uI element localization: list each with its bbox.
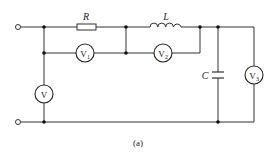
svg-text:3: 3 [256, 76, 259, 82]
resistor-label: R [82, 11, 89, 22]
junction-dot [216, 120, 220, 124]
svg-text:2: 2 [165, 54, 168, 60]
junction-dot [216, 25, 220, 29]
resistor [77, 24, 96, 30]
junction-dot [124, 51, 128, 55]
junction-dot [42, 120, 46, 124]
svg-text:1: 1 [87, 54, 90, 60]
terminal-bottom [16, 120, 21, 125]
junction-dot [198, 25, 202, 29]
svg-text:V: V [41, 90, 48, 100]
figure-caption: (a) [133, 138, 143, 148]
inductor [150, 23, 181, 27]
terminal-top [16, 25, 21, 30]
circuit-diagram: V V 1 V 2 V 3 R L C (a) [0, 0, 273, 160]
voltmeter-main: V [35, 85, 53, 103]
voltmeter-3: V 3 [245, 66, 263, 84]
inductor-label: L [162, 11, 169, 22]
capacitor-label: C [202, 70, 209, 81]
voltmeter-1: V 1 [76, 44, 94, 62]
junction-dot [42, 51, 46, 55]
junction-dot [42, 25, 46, 29]
voltmeter-2: V 2 [154, 44, 172, 62]
junction-dot [124, 25, 128, 29]
